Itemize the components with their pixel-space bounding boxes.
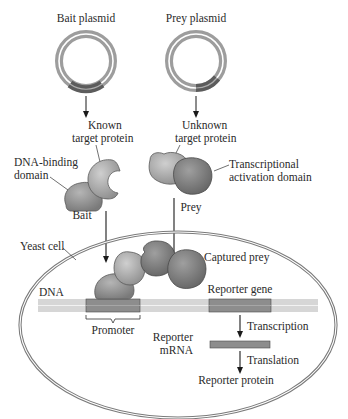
- reporter-mrna-label-1: Reporter: [153, 331, 193, 344]
- bait-plasmid-label: Bait plasmid: [57, 12, 116, 25]
- activation-domain-label-1: Transcriptional: [229, 158, 299, 171]
- reporter-mrna-bar: [210, 341, 270, 348]
- unknown-label-2: target protein: [175, 132, 237, 145]
- promoter-label: Promoter: [92, 324, 135, 336]
- prey-plasmid: Prey plasmid: [166, 12, 227, 118]
- two-hybrid-diagram: Bait plasmid Prey plasmid Known target p…: [0, 0, 348, 419]
- reporter-mrna-label-2: mRNA: [160, 344, 194, 356]
- translation-label: Translation: [247, 354, 299, 366]
- activation-domain-label-2: activation domain: [229, 171, 312, 183]
- bait-plasmid: Bait plasmid: [57, 12, 116, 118]
- dna-binding-label-2: domain: [14, 169, 49, 181]
- prey-label: Prey: [180, 201, 201, 214]
- dna-binding-label-1: DNA-binding: [14, 156, 78, 169]
- reporter-protein-label: Reporter protein: [198, 374, 274, 387]
- known-label-1: Known: [88, 119, 122, 131]
- promoter-brace: [86, 315, 140, 323]
- known-label-2: target protein: [72, 132, 134, 145]
- expression-pathway: Transcription Reporter mRNA Translation …: [153, 315, 309, 387]
- prey-plasmid-label: Prey plasmid: [166, 12, 227, 25]
- bait-plasmid-ring-inner-line: [59, 34, 113, 88]
- transcription-label: Transcription: [247, 320, 309, 333]
- dna-label: DNA: [39, 286, 65, 298]
- known-target-protein-shape: [88, 160, 120, 199]
- unknown-label-1: Unknown: [182, 119, 228, 131]
- reporter-gene-label: Reporter gene: [208, 283, 273, 296]
- activation-domain-shape: [174, 158, 212, 195]
- captured-activation-domain: [168, 250, 206, 289]
- bound-known-target: [114, 252, 145, 285]
- bait-label: Bait: [72, 209, 92, 221]
- activation-domain-leader: [214, 165, 229, 171]
- known-leader: [96, 145, 100, 162]
- captured-prey-label: Captured prey: [204, 251, 270, 264]
- dna-binding-leader: [50, 177, 68, 190]
- yeast-cell-label: Yeast cell: [20, 240, 65, 252]
